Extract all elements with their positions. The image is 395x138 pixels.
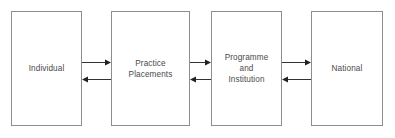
arrow-head-icon (190, 77, 196, 83)
diagram-node-programme-and-institution[interactable]: Programme and Institution (211, 11, 282, 126)
diagram-node-label: Practice Placements (126, 58, 176, 80)
flow-diagram: Individual Practice Placements Programme… (0, 0, 395, 138)
diagram-node-national[interactable]: National (311, 11, 383, 126)
diagram-node-label: Programme and Institution (222, 52, 272, 85)
diagram-node-practice-placements[interactable]: Practice Placements (111, 11, 190, 126)
arrow-head-icon (82, 77, 88, 83)
arrow-head-icon (282, 77, 288, 83)
diagram-node-label: Individual (26, 63, 68, 74)
diagram-node-label: National (329, 63, 366, 74)
diagram-node-individual[interactable]: Individual (11, 11, 82, 126)
